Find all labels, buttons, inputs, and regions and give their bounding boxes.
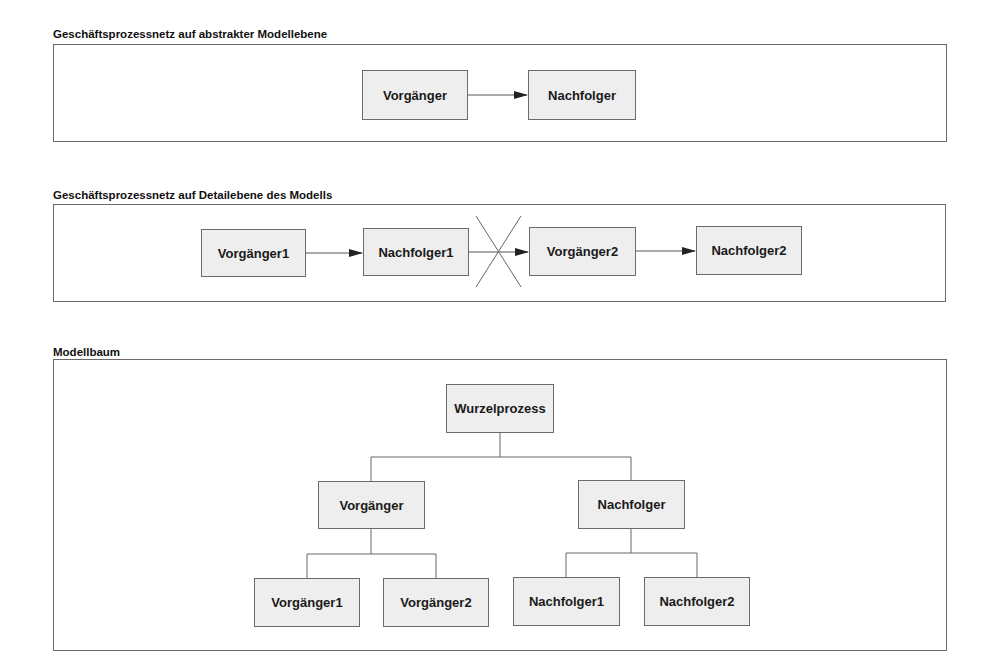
tree-node-vorgaenger: Vorgänger <box>318 481 425 529</box>
panel-abstract <box>53 44 947 142</box>
section-title-modellbaum: Modellbaum <box>53 346 120 358</box>
tree-node-vorgaenger1: Vorgänger1 <box>254 578 360 627</box>
node-vorgaenger1: Vorgänger1 <box>201 229 306 277</box>
section-title-abstract: Geschäftsprozessnetz auf abstrakter Mode… <box>53 28 327 40</box>
tree-node-vorgaenger2: Vorgänger2 <box>383 578 489 627</box>
node-nachfolger2: Nachfolger2 <box>696 226 802 275</box>
node-vorgaenger2: Vorgänger2 <box>529 227 636 276</box>
tree-node-nachfolger: Nachfolger <box>578 480 685 529</box>
panel-detail <box>53 204 946 302</box>
section-title-detail: Geschäftsprozessnetz auf Detailebene des… <box>53 189 332 201</box>
node-vorgaenger: Vorgänger <box>362 70 468 120</box>
tree-node-nachfolger2: Nachfolger2 <box>644 577 750 626</box>
tree-node-root: Wurzelprozess <box>446 384 554 433</box>
node-nachfolger1: Nachfolger1 <box>363 228 469 276</box>
node-nachfolger: Nachfolger <box>528 70 636 120</box>
tree-node-nachfolger1: Nachfolger1 <box>513 577 620 626</box>
